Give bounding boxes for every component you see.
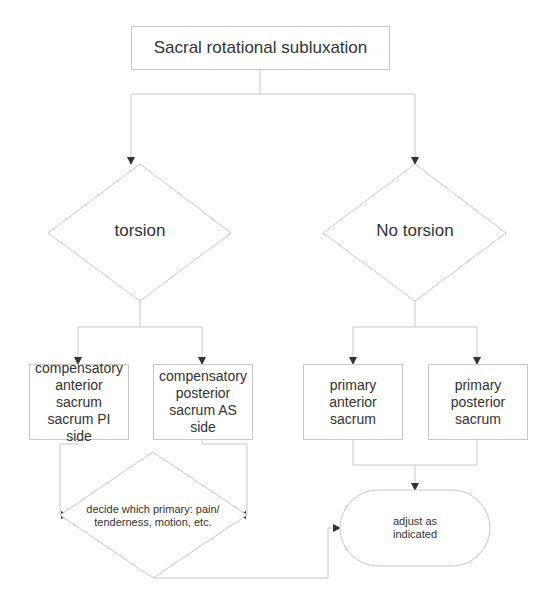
terminal-text: adjust as indicated [380, 515, 450, 541]
connector-primary-to-terminal [353, 439, 477, 490]
box-primary-anterior: primary anterior sacrum [303, 364, 403, 440]
title-text: Sacral rotational subluxation [154, 38, 368, 58]
box-comp-anterior: compensatory anterior sacrum sacrum PI s… [29, 364, 129, 440]
box-comp-posterior: compensatory posterior sacrum AS side [153, 364, 253, 440]
connector-to-no-torsion [390, 94, 415, 164]
box-primary-posterior-text: primary posterior sacrum [432, 377, 524, 428]
terminal-label: adjust as indicated [340, 490, 490, 566]
decision-no-torsion-label: No torsion [323, 221, 507, 241]
box-primary-anterior-text: primary anterior sacrum [307, 377, 399, 428]
box-comp-posterior-text: compensatory posterior sacrum AS side [157, 368, 249, 436]
box-primary-posterior: primary posterior sacrum [428, 364, 528, 440]
connector-torsion-split [78, 301, 202, 327]
decision-decide-label: decide which primary: pain/ tenderness, … [80, 503, 226, 529]
connector-comp-anterior-to-decide [60, 439, 78, 515]
title-box: Sacral rotational subluxation [131, 26, 390, 70]
connector-title-split [131, 70, 390, 94]
box-comp-anterior-text: compensatory anterior sacrum sacrum PI s… [33, 360, 125, 445]
decision-torsion-label: torsion [48, 221, 232, 241]
connector-no-torsion-split [353, 301, 477, 327]
